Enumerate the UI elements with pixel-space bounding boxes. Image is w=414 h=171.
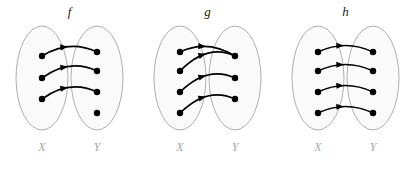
codomain-set-label: Y (232, 140, 240, 154)
domain-dot (39, 96, 45, 102)
codomain-dot (232, 75, 238, 81)
panel-title-g: g (204, 4, 211, 19)
panel-title-f: f (68, 4, 74, 19)
domain-set-label: X (313, 140, 322, 154)
panel-g: gXY (154, 4, 261, 154)
function-diagrams-figure: fXYgXYhXY (0, 0, 414, 171)
domain-set-label: X (175, 140, 184, 154)
codomain-dot (370, 89, 376, 95)
arrow-head (198, 43, 206, 49)
codomain-dot (94, 89, 100, 95)
codomain-dot (370, 49, 376, 55)
domain-dot (315, 49, 321, 55)
domain-dot (177, 110, 183, 116)
codomain-set-label: Y (370, 140, 378, 154)
domain-dot (315, 89, 321, 95)
panel-h: hXY (292, 4, 399, 154)
codomain-set-label: Y (94, 140, 102, 154)
codomain-dot (94, 68, 100, 74)
domain-set-label: X (37, 140, 46, 154)
domain-dot (39, 75, 45, 81)
panels-root: fXYgXYhXY (16, 4, 399, 154)
panel-title-h: h (342, 4, 349, 19)
domain-dot (177, 49, 183, 55)
codomain-dot (232, 53, 238, 59)
arrow-head (336, 42, 344, 48)
domain-dot (315, 110, 321, 116)
domain-dot (177, 68, 183, 74)
codomain-dot (94, 110, 100, 116)
domain-dot (39, 53, 45, 59)
codomain-dot (94, 49, 100, 55)
panel-f: fXY (16, 4, 123, 154)
domain-dot (315, 68, 321, 74)
codomain-dot (370, 110, 376, 116)
domain-dot (177, 89, 183, 95)
codomain-dot (370, 68, 376, 74)
codomain-dot (232, 96, 238, 102)
